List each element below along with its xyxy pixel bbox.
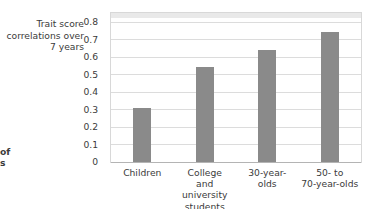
y-tick-label: 0.1: [72, 140, 98, 149]
bar: [321, 32, 339, 162]
y-tick-label: 0.5: [72, 70, 98, 79]
y-tick-label: 0.8: [72, 17, 98, 26]
gridline: [111, 22, 361, 23]
bar: [133, 108, 151, 162]
axis-baseline: [111, 162, 361, 163]
y-tick-label: 0.2: [72, 122, 98, 131]
margin-text-fragment-2: s: [0, 157, 5, 169]
x-category-label: 50- to 70-year-olds: [291, 167, 367, 189]
y-tick-label: 0: [72, 157, 98, 166]
y-tick-label: 0.6: [72, 52, 98, 61]
y-tick-label: 0.7: [72, 35, 98, 44]
margin-text-fragment-1: of: [0, 146, 10, 158]
y-tick-label: 0.3: [72, 105, 98, 114]
bar: [196, 67, 214, 162]
plot-top-band: [111, 13, 361, 18]
plot-area: [110, 12, 362, 163]
bar: [258, 50, 276, 162]
y-tick-label: 0.4: [72, 87, 98, 96]
bar-chart-figure: Trait score correlations over 7 years of…: [0, 0, 367, 209]
